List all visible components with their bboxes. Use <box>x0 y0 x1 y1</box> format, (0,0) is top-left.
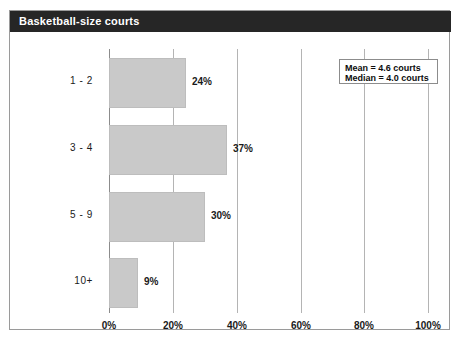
bar-value-4: 9% <box>144 276 158 287</box>
plot-area: 1 - 2 3 - 4 5 - 9 10+ 24% 37% 30% 9% 0% … <box>10 32 451 330</box>
bar-value-3: 30% <box>211 210 231 221</box>
median-annotation: Median = 4.0 courts <box>345 73 437 83</box>
category-label-3: 5 - 9 <box>10 209 93 220</box>
gridline-60 <box>301 49 302 313</box>
xtick-label-60: 60% <box>291 320 311 331</box>
bar-4 <box>109 258 138 308</box>
chart-title-bar: Basketball-size courts <box>10 11 451 32</box>
chart-figure: Basketball-size courts 1 - 2 3 - 4 5 - 9… <box>9 10 450 330</box>
bar-value-1: 24% <box>192 76 212 87</box>
gridline-40 <box>237 49 238 313</box>
bar-2 <box>109 125 227 175</box>
category-label-2: 3 - 4 <box>10 142 93 153</box>
bar-1 <box>109 58 186 108</box>
category-label-4: 10+ <box>10 275 93 286</box>
xtick-label-40: 40% <box>227 320 247 331</box>
bar-value-2: 37% <box>233 143 253 154</box>
bar-3 <box>109 192 205 242</box>
gridline-100 <box>428 49 429 313</box>
xtick-label-80: 80% <box>354 320 374 331</box>
mean-annotation: Mean = 4.6 courts <box>345 63 437 73</box>
stats-annotation-box: Mean = 4.6 courts Median = 4.0 courts <box>339 59 438 84</box>
gridline-80 <box>364 49 365 313</box>
category-label-1: 1 - 2 <box>10 75 93 86</box>
page-title: Basketball-size courts <box>19 15 140 27</box>
xtick-label-0: 0% <box>102 320 116 331</box>
xtick-label-100: 100% <box>415 320 441 331</box>
xtick-label-20: 20% <box>163 320 183 331</box>
